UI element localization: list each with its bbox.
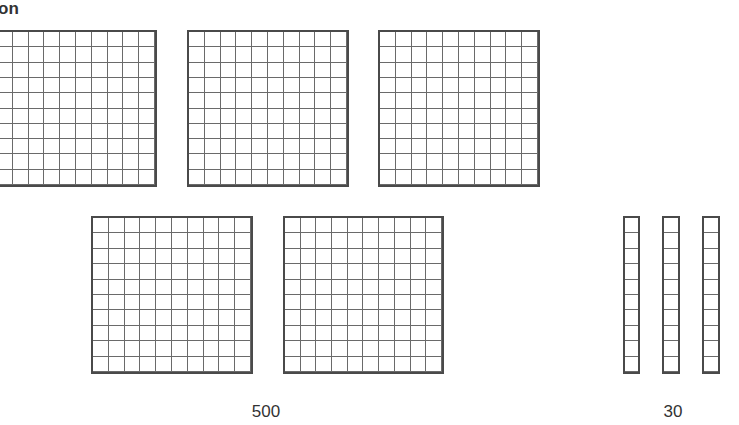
hundred-flat-4 [91, 216, 253, 374]
heading-text: on [0, 0, 19, 19]
hundred-flat-3 [378, 30, 540, 187]
ten-rod-3 [702, 216, 720, 374]
hundred-flat-1 [0, 30, 157, 187]
ten-rod-2 [662, 216, 680, 374]
tens-value-label: 30 [643, 402, 703, 422]
ten-rod-1 [623, 216, 640, 374]
hundreds-value-label: 500 [236, 402, 296, 422]
hundred-flat-2 [187, 30, 349, 187]
hundred-flat-5 [283, 216, 444, 374]
